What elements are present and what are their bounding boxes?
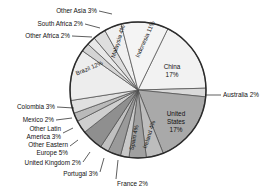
leader-portugal — [100, 158, 104, 172]
label-mexico: Mexico 2% — [23, 116, 55, 123]
label-united-states-line2: States — [167, 118, 185, 125]
label-other-africa: Other Africa 2% — [25, 32, 70, 39]
label-china-percent: 17% — [166, 71, 179, 78]
label-united-kingdom: United Kingdom 2% — [25, 159, 82, 167]
leader-other-latin-america — [63, 128, 73, 133]
label-colombia: Colombia 3% — [17, 103, 55, 110]
label-australia: Australia 2% — [223, 91, 259, 98]
leader-other-africa — [72, 36, 92, 37]
label-other-latin-america-line2: America 3% — [27, 133, 62, 140]
label-france: France 2% — [117, 180, 148, 187]
label-south-africa: South Africa 2% — [38, 20, 84, 27]
label-united-states-percent: 17% — [170, 126, 183, 133]
leader-united-kingdom — [83, 152, 90, 162]
label-united-states-line1: United — [167, 110, 186, 117]
leader-south-africa — [85, 24, 100, 28]
label-other-eastern-europe-line1: Other Eastern — [28, 141, 68, 148]
leader-france — [116, 160, 118, 179]
pie-chart-figure: Other Asia 3% South Africa 2% Other Afri… — [0, 0, 260, 195]
leader-mexico — [56, 118, 72, 120]
label-other-latin-america-line1: Other Latin — [29, 125, 61, 132]
leader-other-eastern-europe — [70, 140, 78, 146]
label-portugal: Portugal 3% — [63, 170, 98, 178]
leader-other-asia — [99, 11, 112, 14]
pie-chart-svg: Other Asia 3% South Africa 2% Other Afri… — [0, 0, 260, 195]
label-other-asia: Other Asia 3% — [56, 7, 97, 14]
label-china-name: China — [164, 63, 181, 70]
label-other-eastern-europe-line2: Europe 5% — [36, 149, 68, 157]
